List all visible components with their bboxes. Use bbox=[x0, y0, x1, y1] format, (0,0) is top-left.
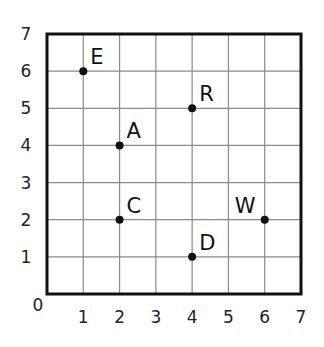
y-tick-label: 4 bbox=[21, 135, 32, 155]
y-tick-label: 5 bbox=[21, 98, 32, 118]
point-label: W bbox=[235, 194, 256, 218]
x-tick-label: 7 bbox=[296, 307, 307, 327]
point-marker bbox=[116, 216, 124, 224]
x-tick-label: 1 bbox=[78, 307, 89, 327]
point-label: E bbox=[90, 45, 103, 69]
point-marker bbox=[188, 104, 196, 112]
x-tick-label: 2 bbox=[114, 307, 125, 327]
point-marker bbox=[188, 253, 196, 261]
point-marker bbox=[261, 216, 269, 224]
y-axis-ticks: 1234567 bbox=[21, 24, 32, 267]
point-label: D bbox=[199, 231, 215, 255]
x-tick-label: 5 bbox=[223, 307, 234, 327]
point-marker bbox=[116, 141, 124, 149]
data-points: ERACWD bbox=[79, 45, 268, 261]
y-tick-label: 7 bbox=[21, 24, 32, 44]
x-axis-ticks: 1234567 bbox=[78, 307, 307, 327]
y-tick-label: 6 bbox=[21, 61, 32, 81]
point-marker bbox=[79, 67, 87, 75]
origin-label: 0 bbox=[33, 295, 44, 315]
x-tick-label: 3 bbox=[150, 307, 161, 327]
point-label: A bbox=[127, 119, 142, 143]
y-tick-label: 2 bbox=[21, 210, 32, 230]
y-tick-label: 1 bbox=[21, 247, 32, 267]
y-tick-label: 3 bbox=[21, 173, 32, 193]
point-label: R bbox=[199, 82, 214, 106]
point-label: C bbox=[127, 194, 142, 218]
x-tick-label: 4 bbox=[187, 307, 198, 327]
coordinate-grid-chart: 1234567 1234567 0 ERACWD bbox=[0, 0, 324, 347]
x-tick-label: 6 bbox=[259, 307, 270, 327]
